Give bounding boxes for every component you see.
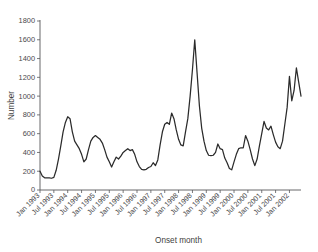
y-tick-label: 1800 — [19, 16, 35, 25]
y-tick-label: 1200 — [19, 73, 35, 82]
y-axis-tick-labels: 020040060080010001200140016001800 — [19, 16, 35, 194]
x-axis-group: Jan 1993Jul 1993Jan 1994Jul 1994Jan 1995… — [14, 190, 301, 218]
x-axis-tick-labels: Jan 1993Jul 1993Jan 1994Jul 1994Jan 1995… — [14, 191, 291, 218]
y-tick-label: 400 — [23, 148, 35, 157]
y-tick-label: 200 — [23, 167, 35, 176]
y-tick-label: 600 — [23, 129, 35, 138]
y-tick-label: 1400 — [19, 54, 35, 63]
y-tick-label: 800 — [23, 110, 35, 119]
y-tick-label: 1600 — [19, 35, 35, 44]
chart-canvas: 020040060080010001200140016001800 Jan 19… — [0, 0, 318, 252]
y-tick-label: 1000 — [19, 92, 35, 101]
data-series-line — [40, 40, 301, 178]
x-axis-title: Onset month — [155, 236, 202, 245]
y-axis-group: 020040060080010001200140016001800 — [19, 16, 40, 194]
line-chart: 020040060080010001200140016001800 Jan 19… — [0, 0, 318, 252]
y-axis-title: Number — [7, 91, 16, 120]
